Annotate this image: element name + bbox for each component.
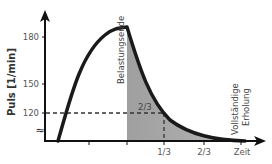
y-tick-label-180: 180 — [23, 32, 39, 42]
pulse-recovery-diagram: 180 150 120 ≈ 1/3 2/3 Zeit Puls [1/min] … — [0, 0, 272, 164]
x-tick-label-two-thirds: 2/3 — [197, 147, 211, 157]
full-recovery-label-line2: Erholung — [241, 88, 251, 126]
y-tick-label-150: 150 — [23, 79, 39, 89]
x-tick-label-one-third: 1/3 — [157, 147, 171, 157]
fraction-marker-label: 2/3 — [138, 102, 152, 112]
y-tick-label-120: 120 — [23, 108, 39, 118]
load-end-label: Belastungsende — [116, 16, 126, 84]
full-recovery-label-line1: Vollständige — [230, 83, 240, 135]
recovery-shaded-area — [127, 27, 245, 141]
x-axis-label-zeit: Zeit — [234, 147, 251, 157]
y-axis-title: Puls [1/min] — [6, 48, 17, 116]
axis-break-icon: ≈ — [35, 124, 44, 137]
